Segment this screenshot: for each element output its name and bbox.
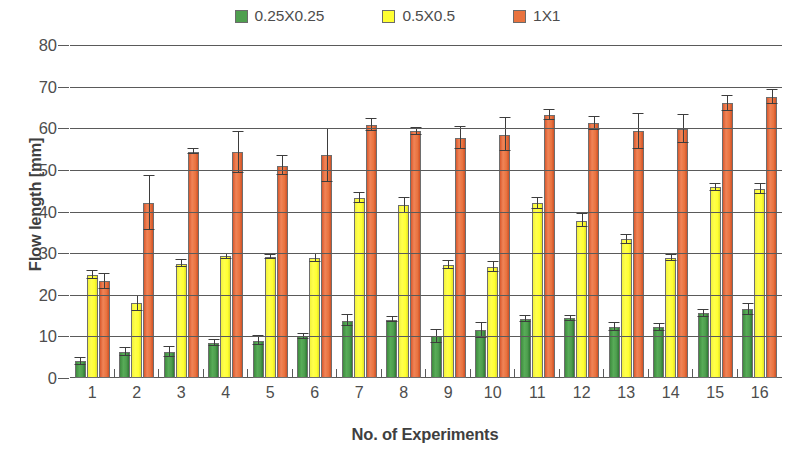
bar (710, 187, 721, 378)
error-bar-cap (544, 119, 555, 120)
bar (208, 343, 219, 378)
error-bar-cap (208, 345, 219, 346)
error-bar-cap (609, 322, 620, 323)
error-bar-cap (164, 356, 175, 357)
legend-swatch-icon-2 (513, 10, 526, 23)
bar-chart: 0.25X0.25 0.5X0.5 1X1 Flow length [mm] 0… (0, 0, 795, 460)
x-tick-label: 12 (560, 384, 605, 408)
bar (232, 152, 243, 378)
error-bar (149, 176, 150, 230)
x-tick-label: 15 (693, 384, 738, 408)
error-bar-cap (232, 172, 243, 173)
error-bar-cap (342, 325, 353, 326)
gridline (70, 212, 782, 213)
error-bar-cap (475, 322, 486, 323)
error-bar-cap (653, 323, 664, 324)
bar (220, 256, 231, 378)
error-bar-cap (520, 321, 531, 322)
error-bar-cap (277, 155, 288, 156)
y-tick-label: 60 (39, 119, 70, 138)
bar (410, 131, 421, 378)
error-bar-cap (354, 202, 365, 203)
bar (342, 321, 353, 378)
error-bar-cap (621, 234, 632, 235)
error-bar-cap (297, 333, 308, 334)
y-tick-label: 80 (39, 36, 70, 55)
error-bar-cap (119, 347, 130, 348)
error-bar-cap (544, 109, 555, 110)
gridline (70, 87, 782, 88)
bar (398, 205, 409, 378)
error-bar (505, 118, 506, 151)
bar (544, 115, 555, 378)
error-bar (238, 132, 239, 174)
x-tick-label: 2 (115, 384, 160, 408)
error-bar-cap (665, 254, 676, 255)
y-tick-label: 70 (39, 77, 70, 96)
error-bar-cap (265, 258, 276, 259)
error-bar-cap (342, 314, 353, 315)
legend-item-1: 0.5X0.5 (382, 7, 455, 25)
error-bar-cap (410, 134, 421, 135)
bar (265, 257, 276, 378)
error-bar (137, 296, 138, 311)
error-bar-cap (87, 278, 98, 279)
bar (119, 352, 130, 378)
gridline (70, 45, 782, 46)
error-bar-cap (754, 183, 765, 184)
bar (297, 336, 308, 378)
bar (621, 239, 632, 378)
error-bar-cap (188, 148, 199, 149)
error-bar-cap (499, 150, 510, 151)
error-bar-cap (119, 355, 130, 356)
x-tick-label: 11 (515, 384, 560, 408)
error-bar-cap (188, 153, 199, 154)
gridline (70, 295, 782, 296)
error-bar-cap (99, 288, 110, 289)
error-bar-cap (576, 226, 587, 227)
y-tick-label: 40 (39, 202, 70, 221)
x-tick-label: 1 (70, 384, 115, 408)
error-bar-cap (766, 103, 777, 104)
bar (386, 320, 397, 378)
error-bar-cap (309, 261, 320, 262)
bar (277, 166, 288, 378)
error-bar-cap (75, 357, 86, 358)
error-bar-cap (277, 174, 288, 175)
x-axis-ticks: 12345678910111213141516 (70, 384, 782, 408)
error-bar-cap (742, 303, 753, 304)
error-bar-cap (321, 181, 332, 182)
error-bar-cap (710, 190, 721, 191)
x-tick-label: 10 (471, 384, 516, 408)
error-bar (104, 274, 105, 289)
error-bar-cap (366, 118, 377, 119)
error-bar-cap (176, 266, 187, 267)
error-bar-cap (633, 113, 644, 114)
error-bar-cap (532, 208, 543, 209)
x-tick-label: 8 (382, 384, 427, 408)
error-bar-cap (487, 261, 498, 262)
bar (455, 138, 466, 378)
error-bar-cap (698, 316, 709, 317)
error-bar-cap (431, 342, 442, 343)
error-bar-cap (609, 330, 620, 331)
bar (588, 123, 599, 378)
error-bar-cap (487, 271, 498, 272)
y-tick-label: 50 (39, 160, 70, 179)
error-bar-cap (431, 329, 442, 330)
legend-label-2: 1X1 (533, 7, 560, 25)
bar (520, 319, 531, 378)
error-bar-cap (143, 175, 154, 176)
error-bar-cap (398, 197, 409, 198)
bar (564, 318, 575, 378)
error-bar (481, 323, 482, 338)
error-bar-cap (164, 346, 175, 347)
bar (487, 267, 498, 378)
error-bar-cap (443, 260, 454, 261)
error-bar-cap (208, 339, 219, 340)
bar (499, 135, 510, 379)
bar (87, 275, 98, 378)
error-bar-cap (443, 268, 454, 269)
error-bar (282, 156, 283, 175)
error-bar-cap (722, 95, 733, 96)
